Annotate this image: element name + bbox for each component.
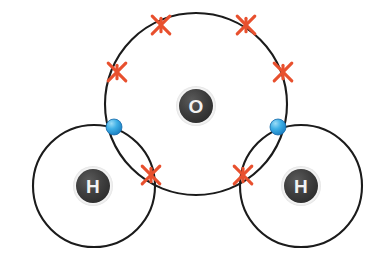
atom-hydrogen-left: H bbox=[73, 166, 113, 206]
dot-electron bbox=[270, 119, 286, 135]
atom-hydrogen-right: H bbox=[281, 166, 321, 206]
dot-electron bbox=[106, 119, 122, 135]
nucleus-group: O H H bbox=[73, 86, 321, 206]
molecule-canvas: O H H bbox=[0, 0, 390, 261]
cross-electron bbox=[234, 166, 252, 184]
oxygen-symbol-label: O bbox=[188, 96, 203, 117]
hydrogen-left-symbol-label: H bbox=[86, 176, 100, 197]
water-dot-and-cross-diagram: O H H bbox=[0, 0, 390, 261]
cross-electron bbox=[142, 166, 160, 184]
cross-electron bbox=[152, 16, 170, 34]
electron-shell-group bbox=[33, 13, 362, 247]
hydrogen-right-symbol-label: H bbox=[294, 176, 308, 197]
cross-electron bbox=[274, 63, 292, 81]
atom-oxygen: O bbox=[176, 86, 216, 126]
